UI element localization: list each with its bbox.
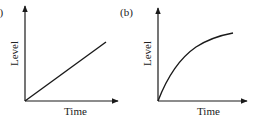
x-axis-label: Time — [197, 105, 220, 117]
y-axis-label: Level — [141, 41, 153, 66]
diagram-canvas: (a) Level Time (b) Level Time — [0, 0, 254, 129]
panel-b-label: (b) — [120, 6, 133, 19]
y-axis-label: Level — [8, 41, 20, 66]
panel-a-label: (a) — [0, 6, 4, 19]
panel-a: (a) Level Time — [0, 6, 118, 117]
linear-curve — [25, 42, 106, 101]
panel-b: (b) Level Time — [120, 6, 247, 117]
saturating-curve — [158, 33, 233, 101]
x-axis-label: Time — [64, 105, 87, 117]
